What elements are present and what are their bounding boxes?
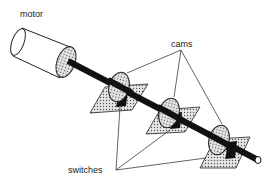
cam-switch-diagram xyxy=(0,0,278,183)
switches-label: switches xyxy=(68,165,103,175)
cams-label: cams xyxy=(171,39,193,49)
motor-label: motor xyxy=(20,9,43,19)
motor xyxy=(8,27,80,80)
